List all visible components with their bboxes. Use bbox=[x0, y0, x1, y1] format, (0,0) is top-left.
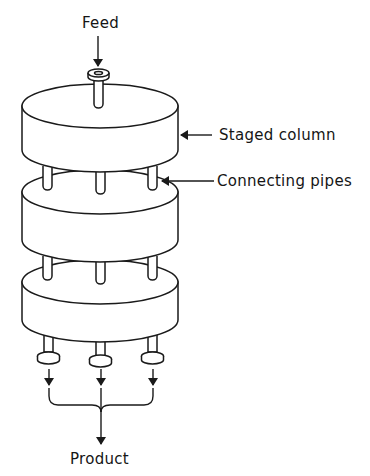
connecting-pipes-label: Connecting pipes bbox=[217, 173, 352, 189]
diagram-canvas bbox=[0, 0, 370, 476]
staged-column-diagram: Feed Staged column Connecting pipes Prod… bbox=[0, 0, 370, 476]
feed-label: Feed bbox=[82, 15, 119, 31]
product-label: Product bbox=[70, 451, 129, 467]
stage-1 bbox=[22, 69, 178, 172]
staged-column-label: Staged column bbox=[219, 127, 336, 143]
product-flow bbox=[49, 369, 153, 444]
